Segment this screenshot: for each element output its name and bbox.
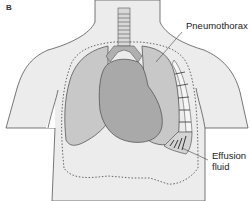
panel-label: B: [6, 3, 12, 12]
effusion-label-line2: fluid: [212, 161, 229, 172]
pneumothorax-label: Pneumothorax: [186, 20, 248, 31]
effusion-label-line1: Effusion: [212, 150, 246, 161]
